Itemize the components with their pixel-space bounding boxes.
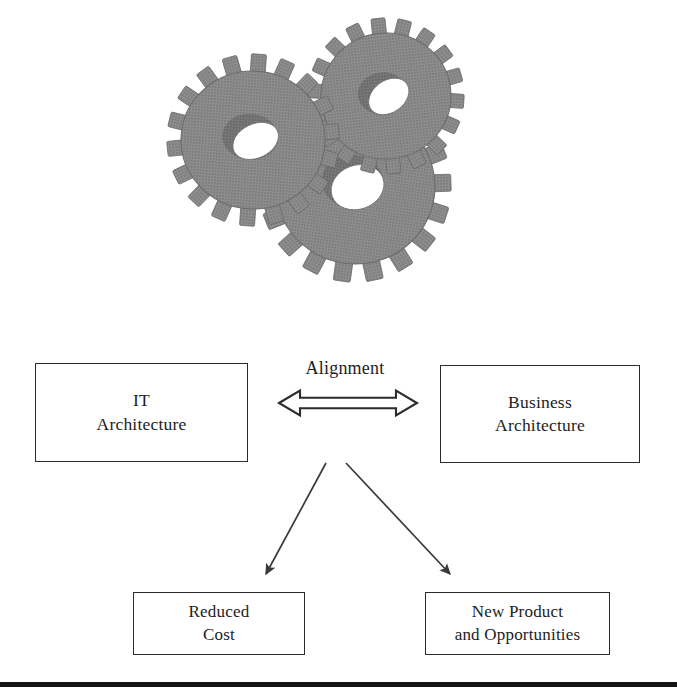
alignment-caption: Alignment	[275, 358, 415, 379]
node-business-architecture: Business Architecture	[440, 365, 640, 463]
node-it-architecture-label: IT Architecture	[97, 389, 187, 435]
node-new-product-and-opportunities: New Product and Opportunities	[425, 592, 610, 655]
bottom-rule-divider	[0, 682, 677, 687]
node-reduced-cost-label: Reduced Cost	[189, 601, 250, 646]
alignment-double-arrow	[279, 391, 417, 416]
gears-illustration	[150, 8, 480, 298]
gears-svg	[150, 8, 480, 298]
arrow-to-new-product	[346, 463, 450, 574]
node-reduced-cost: Reduced Cost	[133, 592, 305, 655]
node-new-product-and-opportunities-label: New Product and Opportunities	[455, 601, 581, 646]
arrow-to-reduced-cost	[266, 463, 326, 574]
node-it-architecture: IT Architecture	[35, 363, 248, 462]
node-business-architecture-label: Business Architecture	[495, 391, 585, 437]
diagram-page: IT Architecture Business Architecture Re…	[0, 0, 677, 696]
